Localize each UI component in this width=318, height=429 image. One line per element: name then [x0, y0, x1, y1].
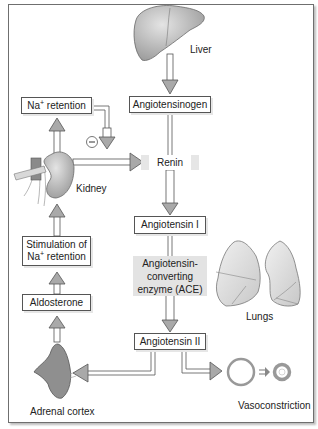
stimulation-label-line2: Na+ retention — [27, 251, 86, 263]
adrenal-cortex-label: Adrenal cortex — [30, 406, 94, 417]
ace-label-line2: converting — [147, 270, 193, 283]
angiotensin2-label: Angiotensin II — [140, 336, 201, 348]
arrow-stimulation-to-kidney — [49, 204, 65, 236]
angiotensin1-label: Angiotensin I — [141, 219, 199, 231]
ace-label-line1: Angiotensin- — [142, 257, 198, 270]
arrow-aldosterone-to-stimulation — [49, 272, 65, 294]
vessel-wide-icon — [228, 359, 254, 385]
na-retention-box: Na+ retention — [21, 97, 92, 114]
arrow-kidney-to-na-retention — [49, 118, 65, 156]
inhibition-icon — [87, 137, 98, 148]
adrenal-cortex-icon — [34, 344, 76, 398]
lungs-icon — [216, 241, 300, 306]
arrow-kidney-to-renin — [73, 153, 143, 171]
angiotensinogen-label: Angiotensinogen — [133, 99, 208, 111]
arrow-angiotensin2-to-adrenal — [73, 350, 155, 382]
angiotensin2-box: Angiotensin II — [134, 333, 206, 350]
arrow-angiotensin2-to-vasoconstriction — [182, 350, 222, 380]
connector-angiotensinogen-renin — [168, 112, 172, 155]
kidney-icon — [14, 152, 74, 206]
stimulation-label-line1: Stimulation of — [26, 239, 87, 251]
small-arrow-icon — [259, 367, 270, 377]
arrow-liver-to-angiotensinogen — [162, 54, 178, 94]
angiotensin1-box: Angiotensin I — [134, 216, 206, 234]
aldosterone-box: Aldosterone — [22, 294, 91, 311]
arrow-adrenal-to-aldosterone — [49, 316, 65, 342]
arrow-renin-to-angiotensin1 — [162, 170, 178, 215]
vasoconstriction-label: Vasoconstriction — [238, 400, 311, 411]
arrow-ace-to-angiotensin2 — [162, 295, 178, 332]
vessel-constricted-icon — [275, 365, 290, 380]
diagram-graphics — [0, 0, 318, 429]
na-retention-label: Na+ retention — [27, 100, 86, 112]
lungs-label: Lungs — [246, 311, 273, 322]
angiotensinogen-box: Angiotensinogen — [129, 96, 211, 113]
ace-box: Angiotensin- converting enzyme (ACE) — [133, 256, 207, 296]
liver-label: Liver — [190, 44, 212, 55]
kidney-label: Kidney — [76, 183, 107, 194]
renin-label: Renin — [157, 156, 183, 169]
aldosterone-label: Aldosterone — [30, 297, 83, 309]
renin-box: Renin — [141, 155, 199, 170]
stimulation-box: Stimulation of Na+ retention — [22, 236, 91, 266]
connector-angiotensin1-ace — [168, 235, 172, 256]
ace-label-line3: enzyme (ACE) — [137, 283, 202, 296]
